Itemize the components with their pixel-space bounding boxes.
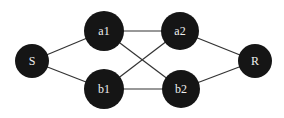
nodes: Sa1b1a2b2R bbox=[15, 11, 272, 109]
node-a1: a1 bbox=[84, 11, 124, 51]
node-b2: b2 bbox=[162, 70, 200, 108]
node-S: S bbox=[15, 44, 49, 78]
node-label: b1 bbox=[98, 82, 110, 96]
edges bbox=[32, 31, 255, 89]
node-label: a2 bbox=[174, 24, 185, 38]
node-label: a1 bbox=[98, 24, 109, 38]
node-a2: a2 bbox=[161, 12, 199, 50]
network-graph: Sa1b1a2b2R bbox=[0, 0, 284, 118]
node-label: R bbox=[251, 54, 259, 68]
node-label: b2 bbox=[175, 82, 187, 96]
node-b1: b1 bbox=[84, 69, 124, 109]
node-label: S bbox=[29, 54, 36, 68]
node-R: R bbox=[238, 44, 272, 78]
